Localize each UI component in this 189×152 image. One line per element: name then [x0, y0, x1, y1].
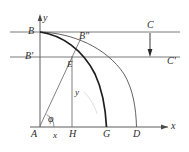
- label-x-axis: x: [171, 121, 175, 131]
- label-abscissa-x: x: [53, 131, 57, 140]
- x-axis-group: [30, 125, 168, 130]
- ray-A-to-Bdoubleprime: [40, 38, 81, 126]
- label-y-axis: y: [43, 13, 47, 23]
- label-point-B: B: [28, 26, 34, 36]
- label-point-E: E: [67, 60, 73, 69]
- label-point-A: A: [31, 129, 37, 139]
- drop-arrow-head: [148, 49, 153, 57]
- label-point-B-prime: B': [25, 51, 33, 61]
- label-angle-phi: φ: [48, 114, 54, 124]
- x-axis-arrowhead: [161, 125, 168, 130]
- drop-arrow-C-to-Cprime: [148, 33, 153, 57]
- label-point-G: G: [103, 129, 110, 139]
- interior-faint-arc: [84, 92, 97, 114]
- label-point-D: D: [133, 129, 140, 139]
- y-axis-group: [38, 14, 43, 127]
- curve-B-to-D: [40, 32, 137, 127]
- label-point-C-prime: C': [167, 56, 176, 66]
- y-axis-arrowhead: [38, 14, 43, 21]
- label-point-C: C: [147, 20, 154, 30]
- label-point-H: H: [69, 129, 76, 139]
- label-ordinate-y: y: [75, 88, 79, 97]
- figure-canvas: [0, 0, 189, 152]
- geometric-figure: y x B B' B″ C C' E y A x H G D φ: [0, 0, 189, 152]
- label-point-B-double-prime: B″: [79, 31, 89, 41]
